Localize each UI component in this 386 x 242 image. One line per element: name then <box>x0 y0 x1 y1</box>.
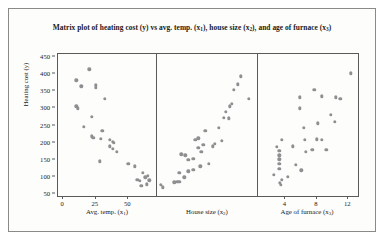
data-point <box>277 162 280 165</box>
data-point <box>320 138 323 141</box>
x2-label-text: House size (x <box>186 208 223 215</box>
y-tick-label: 300 <box>40 104 50 111</box>
data-point <box>220 139 223 142</box>
data-point <box>294 163 297 166</box>
data-point <box>112 141 115 144</box>
data-point <box>75 79 78 82</box>
data-point <box>236 83 239 86</box>
data-point <box>310 148 313 151</box>
data-point <box>339 97 342 100</box>
data-point <box>277 167 280 170</box>
data-point <box>91 136 94 139</box>
data-point <box>115 150 118 153</box>
data-point <box>187 158 190 161</box>
data-point <box>279 183 282 186</box>
x-tick-label: 4 <box>283 200 286 207</box>
data-point <box>178 180 181 183</box>
y-tick-mark <box>52 158 55 159</box>
data-point <box>315 137 318 140</box>
data-point <box>232 88 235 91</box>
y-axis-label-text: Heating cost (y) <box>22 63 29 107</box>
data-point <box>299 169 302 172</box>
data-point <box>147 179 150 182</box>
y-tick-mark <box>52 56 55 57</box>
data-point <box>277 149 280 152</box>
title-segment-1: Matrix plot of heating cost (y) vs avg. … <box>53 23 201 32</box>
figure-frame: Matrix plot of heating cost (y) vs avg. … <box>8 8 376 232</box>
scatter-panel-avg-temp <box>57 53 156 196</box>
data-point <box>101 129 104 132</box>
data-point <box>313 88 316 91</box>
data-point <box>349 72 352 75</box>
data-point <box>222 116 225 119</box>
data-point <box>280 138 283 141</box>
data-point <box>133 165 136 168</box>
data-point <box>217 126 220 129</box>
data-point <box>187 169 190 172</box>
y-tick-label: 450 <box>40 53 50 60</box>
x-axis-label-age-of-furnace: Age of furnace (x3) <box>247 208 367 216</box>
data-point <box>192 168 195 171</box>
x-tick-mark <box>284 196 285 199</box>
x-tick-label: 12 <box>344 200 351 207</box>
data-point <box>138 179 141 182</box>
data-point <box>200 150 203 153</box>
x-tick-mark <box>316 196 317 199</box>
data-point <box>333 120 336 123</box>
y-tick-mark <box>52 192 55 193</box>
data-point <box>304 150 307 153</box>
data-point <box>82 125 85 128</box>
data-point <box>277 158 280 161</box>
data-point <box>286 175 289 178</box>
scatter-panel-age-of-furnace <box>257 53 359 196</box>
x3-label-text: Age of furnace (x <box>281 208 329 215</box>
data-point <box>192 157 195 160</box>
data-point <box>94 86 97 89</box>
x-tick-mark <box>62 196 63 199</box>
x-tick-label: 50 <box>124 200 131 207</box>
y-tick-mark <box>52 90 55 91</box>
data-point <box>239 74 242 77</box>
data-point <box>303 138 306 141</box>
data-point <box>199 165 202 168</box>
data-point <box>76 107 79 110</box>
data-point <box>202 143 205 146</box>
data-point <box>272 173 275 176</box>
data-point <box>184 153 187 156</box>
y-tick-label: 350 <box>40 87 50 94</box>
data-point <box>277 153 280 156</box>
data-point <box>127 162 130 165</box>
data-point <box>197 146 200 149</box>
data-point <box>291 145 294 148</box>
data-point <box>275 145 278 148</box>
y-tick-mark <box>52 124 55 125</box>
title-segment-2: ), house size (x <box>203 23 249 32</box>
data-point <box>280 178 283 181</box>
x3-label-tail: ) <box>331 208 333 215</box>
data-point <box>90 115 93 118</box>
x1-label-text: Avg. temp. (x <box>86 208 123 215</box>
data-point <box>183 176 186 179</box>
data-point <box>88 68 91 71</box>
x-tick-mark <box>347 196 348 199</box>
data-point <box>111 147 114 150</box>
data-point <box>145 183 148 186</box>
chart-title: Matrix plot of heating cost (y) vs avg. … <box>9 23 375 32</box>
y-tick-label: 200 <box>40 138 50 145</box>
y-tick-label: 150 <box>40 155 50 162</box>
data-point <box>178 171 181 174</box>
data-point <box>103 97 106 100</box>
y-tick-mark <box>52 107 55 108</box>
data-point <box>230 102 233 105</box>
title-segment-4: ) <box>329 23 332 32</box>
data-point <box>298 96 301 99</box>
plot-area <box>57 53 359 196</box>
data-point <box>180 152 183 155</box>
y-tick-mark <box>52 73 55 74</box>
data-point <box>320 95 323 98</box>
data-point <box>204 129 207 132</box>
y-tick-mark <box>52 141 55 142</box>
x1-label-tail: ) <box>126 208 128 215</box>
data-point <box>197 136 200 139</box>
data-point <box>227 117 230 120</box>
